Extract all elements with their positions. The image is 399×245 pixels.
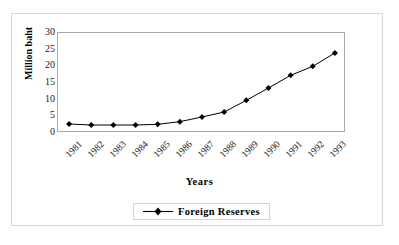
chart-figure: Million baht 30 25 20 15 10 5 0 1981 198… <box>0 0 399 245</box>
x-tick-label-1982: 1982 <box>86 139 107 160</box>
x-tick-label-1991: 1991 <box>284 139 305 160</box>
diamond-marker-icon <box>143 206 173 217</box>
x-tick-label-1987: 1987 <box>196 139 217 160</box>
x-tick-label-1985: 1985 <box>152 139 173 160</box>
x-tick-label-1992: 1992 <box>306 139 327 160</box>
chart-legend: Foreign Reserves <box>133 203 270 220</box>
x-tick-label-1993: 1993 <box>328 139 349 160</box>
x-tick-label-1990: 1990 <box>262 139 283 160</box>
x-tick-label-1981: 1981 <box>64 139 85 160</box>
x-tick-label-1983: 1983 <box>108 139 129 160</box>
x-tick-label-1984: 1984 <box>130 139 151 160</box>
x-tick-label-1988: 1988 <box>218 139 239 160</box>
x-axis-title: Years <box>0 176 399 187</box>
legend-label-foreign-reserves: Foreign Reserves <box>178 206 260 217</box>
x-tick-label-1986: 1986 <box>174 139 195 160</box>
x-tick-label-1989: 1989 <box>240 139 261 160</box>
